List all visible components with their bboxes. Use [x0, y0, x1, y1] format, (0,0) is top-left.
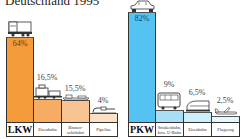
airplane-icon [214, 107, 238, 116]
car-icon [129, 0, 156, 12]
label-strassenbahn: Straßenbahn, bzw. U-Bahn [155, 122, 184, 137]
bar-pkw [128, 12, 156, 123]
label-eisenbahn-freight: Eisenbahn [33, 122, 62, 137]
label-flugzeug: Flugzeug [211, 122, 240, 137]
pipeline-icon [91, 106, 117, 114]
value-pipeline: 4% [88, 96, 118, 105]
bar-binnenschiffahrt [61, 100, 90, 123]
truck-icon [7, 21, 33, 37]
value-strassenbahn: 9% [154, 80, 184, 89]
freight-train-icon [34, 84, 62, 99]
label-binnenschiffahrt: Binnen-schiffahrt [61, 122, 90, 137]
bar-eisenbahn-freight [33, 99, 62, 123]
value-pkw: 82% [127, 14, 157, 23]
ship-icon [62, 93, 90, 101]
train-icon [185, 100, 211, 112]
bar-lkw [6, 37, 34, 123]
value-eisenbahn-passenger: 6,5% [182, 88, 212, 97]
bus-icon [157, 92, 181, 110]
value-binnenschiffahrt: 15,5% [60, 84, 90, 93]
value-eisenbahn-freight: 16,5% [32, 73, 62, 82]
value-flugzeug: 2,5% [210, 96, 240, 105]
chart-title: Deutschland 1995 [5, 0, 99, 9]
value-lkw: 64% [5, 39, 35, 48]
label-lkw: LKW [6, 122, 34, 137]
label-eisenbahn-passenger: Eisenbahn [183, 122, 212, 137]
label-pipeline: Pipeline [89, 122, 118, 137]
label-pkw: PKW [128, 122, 156, 137]
